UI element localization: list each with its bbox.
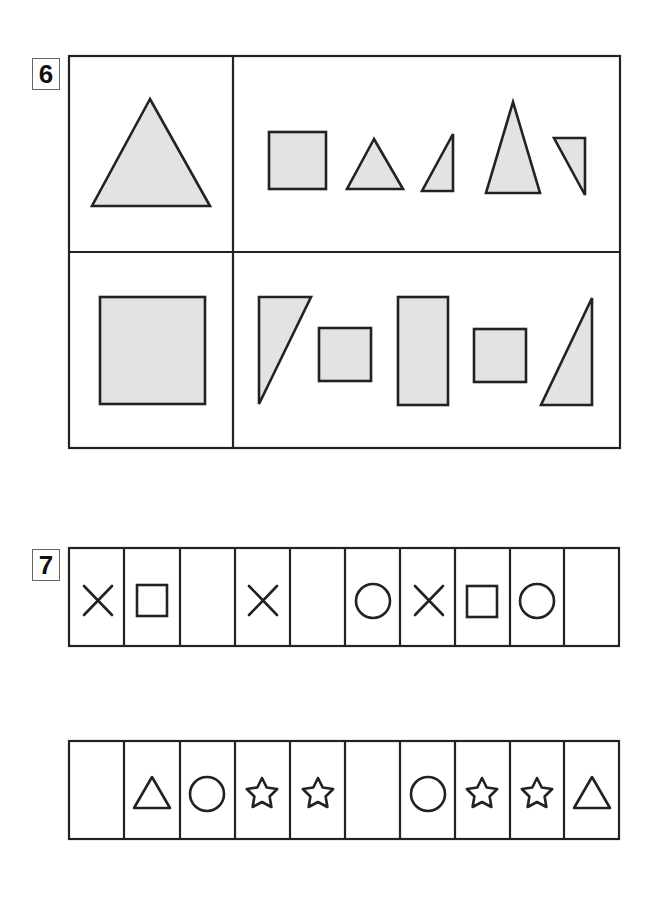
circle-icon	[190, 777, 224, 811]
square-icon	[269, 132, 326, 189]
problem-7-row-1	[69, 548, 619, 646]
problem-7-row-2	[69, 741, 619, 839]
right-triangle-icon	[259, 297, 311, 404]
cross-icon	[84, 586, 112, 615]
square-icon	[474, 329, 526, 382]
star-icon	[247, 778, 277, 807]
inverted-right-triangle-icon	[554, 138, 585, 195]
right-triangle-icon	[422, 134, 453, 191]
square-icon	[100, 297, 205, 404]
cross-icon	[249, 586, 277, 615]
triangle-icon	[574, 777, 610, 808]
star-icon	[467, 778, 497, 807]
square-icon	[319, 328, 371, 381]
worksheet-canvas	[0, 0, 651, 900]
right-triangle-icon	[541, 298, 592, 405]
circle-icon	[411, 777, 445, 811]
cross-icon	[415, 586, 443, 615]
star-icon	[303, 778, 333, 807]
square-icon	[467, 586, 497, 617]
circle-icon	[356, 584, 390, 618]
triangle-icon	[347, 139, 403, 189]
rectangle-icon	[398, 297, 448, 405]
circle-icon	[520, 584, 554, 618]
star-icon	[522, 778, 552, 807]
tall-triangle-icon	[486, 102, 540, 193]
triangle-icon	[134, 777, 170, 808]
square-icon	[137, 585, 167, 616]
triangle-icon	[92, 99, 210, 206]
